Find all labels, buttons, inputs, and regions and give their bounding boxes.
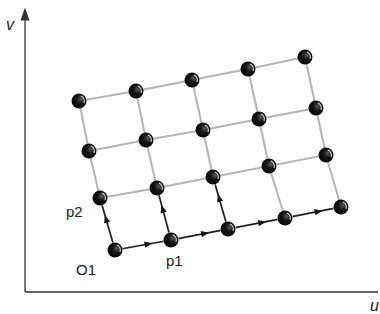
basis-arrow-p1 — [293, 209, 333, 217]
origin-label: O1 — [76, 262, 96, 277]
lattice-node — [150, 181, 165, 196]
grid-edge — [269, 166, 285, 218]
lattice-node — [319, 148, 334, 163]
lattice-node — [252, 112, 267, 127]
lattice-nodes — [72, 50, 349, 258]
basis-arrows — [102, 185, 333, 249]
grid-edge — [157, 177, 213, 188]
lattice-node — [108, 243, 123, 258]
basis-arrow-p1 — [123, 241, 163, 248]
x-axis-label: u — [370, 298, 379, 314]
grid-edge — [259, 108, 316, 119]
basis-arrow-p2 — [102, 206, 113, 243]
grid-edge — [326, 155, 341, 207]
grid-edge — [136, 91, 146, 140]
grid-edge — [269, 155, 326, 166]
lattice-node — [241, 62, 256, 77]
p1-label: p1 — [166, 253, 183, 268]
lattice-node — [164, 233, 179, 248]
grid-edge — [203, 119, 259, 130]
basis-arrow-p1 — [179, 231, 220, 239]
lattice-node — [298, 50, 313, 65]
basis-arrow-p2 — [215, 185, 226, 222]
grid-edge — [213, 166, 269, 177]
p2-label: p2 — [66, 204, 83, 219]
grid-edge — [79, 101, 89, 151]
lattice-node — [185, 73, 200, 88]
grid-edge — [89, 140, 146, 151]
arrowhead-icon — [144, 242, 152, 248]
grid-edge — [79, 91, 136, 101]
lattice-node — [334, 200, 349, 215]
grid-edge — [192, 69, 248, 80]
lattice-node — [278, 211, 293, 226]
lattice-node — [93, 191, 108, 206]
lattice-node — [221, 222, 236, 237]
arrowhead-icon — [161, 205, 167, 214]
lattice-node — [196, 123, 211, 138]
basis-arrow-p2 — [159, 196, 169, 233]
lattice-node — [262, 159, 277, 174]
basis-arrow-p1 — [236, 220, 277, 228]
lattice-node — [129, 84, 144, 99]
grid-edge — [146, 130, 203, 140]
lattice-node — [72, 94, 87, 109]
grid-lines — [79, 57, 341, 250]
grid-edge — [248, 57, 305, 69]
lattice-node — [206, 170, 221, 185]
lattice-node — [309, 101, 324, 116]
grid-edge — [192, 80, 203, 130]
grid-edge — [305, 57, 316, 108]
arrowhead-icon — [104, 215, 110, 224]
grid-edge — [248, 69, 259, 119]
lattice-node — [82, 144, 97, 159]
arrowhead-icon — [217, 194, 223, 203]
grid-edge — [100, 188, 157, 198]
y-axis-label: v — [6, 17, 14, 33]
grid-edge — [136, 80, 192, 91]
lattice-node — [139, 133, 154, 148]
